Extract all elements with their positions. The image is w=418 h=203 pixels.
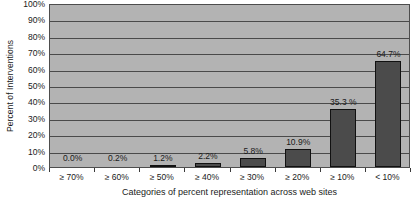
bar-slot: 64.7% bbox=[366, 5, 411, 167]
bars-group: 0.0%0.2%1.2%2.2%5.8%10.9%35.3 %64.7% bbox=[50, 5, 409, 167]
bar[interactable] bbox=[285, 149, 311, 167]
bar[interactable] bbox=[330, 109, 356, 167]
y-axis-tick-label: 90% bbox=[28, 15, 45, 25]
y-axis-tick-labels: 0%10%20%30%40%50%60%70%80%90%100% bbox=[18, 0, 48, 172]
y-axis-tick-label: 100% bbox=[23, 0, 45, 9]
bar-slot: 0.0% bbox=[50, 5, 95, 167]
y-axis-tick-label: 30% bbox=[28, 114, 45, 124]
bar-chart: Percent of Interventions 0%10%20%30%40%5… bbox=[0, 0, 418, 203]
bar-value-label: 35.3 % bbox=[330, 97, 356, 107]
bar-value-label: 64.7% bbox=[376, 49, 400, 59]
y-axis-title-label: Percent of Interventions bbox=[5, 40, 15, 132]
bar[interactable] bbox=[240, 158, 266, 168]
bar[interactable] bbox=[375, 61, 401, 167]
bar-slot: 2.2% bbox=[185, 5, 230, 167]
bar[interactable] bbox=[150, 165, 176, 167]
x-axis-tick-label: ≥ 20% bbox=[285, 172, 309, 182]
x-axis-tick-label: ≥ 70% bbox=[60, 172, 84, 182]
y-axis-tick-label: 50% bbox=[28, 81, 45, 91]
bar-slot: 35.3 % bbox=[321, 5, 366, 167]
bar-value-label: 10.9% bbox=[286, 137, 310, 147]
x-axis-tick-label: ≥ 50% bbox=[150, 172, 174, 182]
bar-value-label: 0.0% bbox=[63, 153, 82, 163]
x-axis-tick-label: ≥ 60% bbox=[105, 172, 129, 182]
y-axis-tick-label: 80% bbox=[28, 32, 45, 42]
bar-slot: 0.2% bbox=[95, 5, 140, 167]
bar-value-label: 2.2% bbox=[198, 151, 217, 161]
y-axis-tick-label: 10% bbox=[28, 147, 45, 157]
y-axis-title: Percent of Interventions bbox=[0, 0, 20, 172]
y-axis-tick-label: 40% bbox=[28, 97, 45, 107]
y-axis-tick-label: 60% bbox=[28, 65, 45, 75]
x-axis-tick-label: ≥ 40% bbox=[195, 172, 219, 182]
plot-area: 0.0%0.2%1.2%2.2%5.8%10.9%35.3 %64.7% bbox=[49, 4, 410, 168]
y-axis-tick-label: 20% bbox=[28, 130, 45, 140]
x-axis-tick-label: ≥ 10% bbox=[330, 172, 354, 182]
bar-value-label: 5.8% bbox=[243, 146, 262, 156]
y-axis-tick-label: 0% bbox=[33, 163, 45, 173]
x-axis-tick-labels: ≥ 70%≥ 60%≥ 50%≥ 40%≥ 30%≥ 20%≥ 10%< 10% bbox=[49, 172, 410, 186]
bar[interactable] bbox=[195, 163, 221, 167]
bar-value-label: 0.2% bbox=[108, 153, 127, 163]
x-axis-tick-label: ≥ 30% bbox=[240, 172, 264, 182]
x-axis-title: Categories of percent representation acr… bbox=[49, 187, 410, 197]
bar-slot: 1.2% bbox=[140, 5, 185, 167]
bar-slot: 10.9% bbox=[276, 5, 321, 167]
y-axis-tick-label: 70% bbox=[28, 48, 45, 58]
x-axis-tick bbox=[410, 168, 411, 172]
x-axis-tick-label: < 10% bbox=[375, 172, 399, 182]
bar-value-label: 1.2% bbox=[153, 153, 172, 163]
bar-slot: 5.8% bbox=[231, 5, 276, 167]
